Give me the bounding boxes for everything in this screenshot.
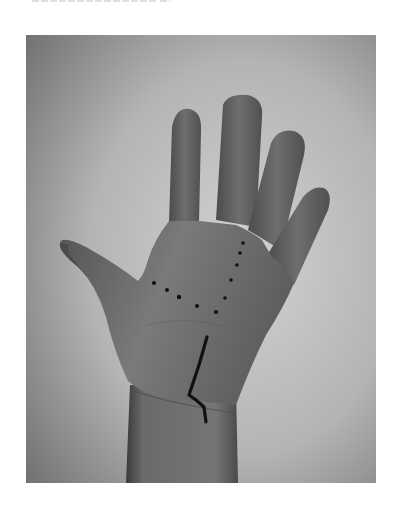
hand-illustration (26, 35, 376, 483)
cutoff-caption-text-fragment (160, 0, 170, 2)
index-finger (169, 109, 201, 223)
cutoff-caption-text (32, 0, 157, 2)
hand-photograph (26, 35, 376, 483)
